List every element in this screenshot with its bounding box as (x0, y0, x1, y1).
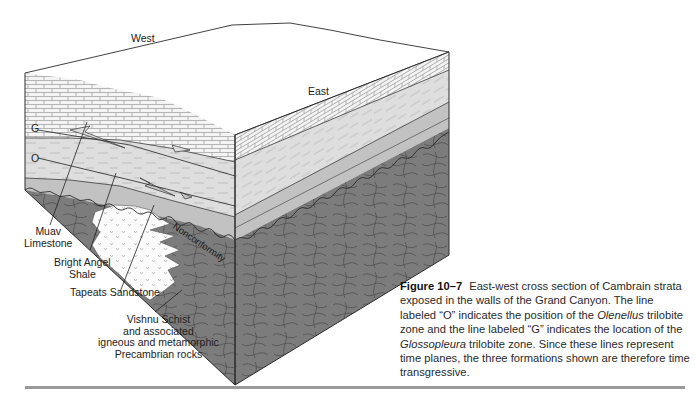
bottom-rule (25, 386, 685, 389)
vishnu-schist-label: Vishnu Schist and associated igneous and… (98, 314, 219, 360)
zone-marker-o: O (31, 153, 39, 165)
west-label: West (131, 33, 155, 45)
figure-number: Figure 10–7 (400, 280, 462, 292)
tapeats-sandstone-label: Tapeats Sandstone (70, 287, 160, 299)
zone-marker-g: G (31, 123, 39, 135)
east-label: East (308, 86, 329, 98)
bright-angel-shale-label: Bright Angel Shale (54, 257, 111, 280)
figure-caption: Figure 10–7East-west cross section of Ca… (400, 279, 690, 380)
muav-limestone-label: Muav Limestone (24, 226, 72, 249)
